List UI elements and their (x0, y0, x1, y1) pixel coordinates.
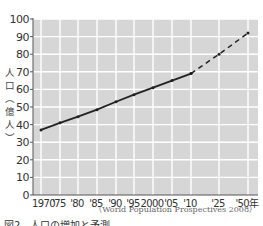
y-tick-label: 30 (16, 136, 29, 149)
y-tick-label: 100 (10, 13, 30, 26)
y-tick-label: 10 (16, 171, 29, 184)
data-point (171, 79, 174, 82)
data-point (77, 115, 80, 118)
data-point (247, 32, 250, 35)
y-axis-label-char: 人 (4, 118, 16, 131)
data-point (96, 108, 99, 111)
data-point (190, 72, 193, 75)
population-line-chart: 01020304050607080901001970'75'80'85'90'9… (0, 0, 263, 226)
y-tick-label: 50 (16, 101, 29, 114)
data-point (152, 86, 155, 89)
figure-caption: 図2 人口の増加と予測 (4, 217, 110, 226)
y-axis-label-char: ︶ (4, 131, 16, 144)
y-tick-label: 90 (16, 31, 29, 44)
y-tick-label: 40 (16, 119, 29, 132)
data-point (133, 93, 136, 96)
data-point (40, 128, 43, 131)
data-point (59, 121, 62, 124)
y-tick-label: 70 (16, 66, 29, 79)
y-tick-label: 80 (16, 48, 29, 61)
data-source-note: （World Population Prospectives 2008） (94, 203, 257, 214)
data-point (218, 53, 221, 56)
y-tick-label: 20 (16, 154, 29, 167)
y-axis-label-char: 口 (4, 79, 16, 92)
data-point (115, 100, 118, 103)
y-tick-label: 60 (16, 83, 29, 96)
y-axis-label-char: 人 (4, 66, 16, 79)
y-tick-label: 0 (23, 189, 30, 202)
x-tick-label: '75 (52, 198, 66, 209)
y-axis-label: 人 口 ︵ 億 人 ︶ (4, 66, 16, 144)
x-tick-label: '80 (70, 198, 84, 209)
chart-plot: 01020304050607080901001970'75'80'85'90'9… (0, 0, 263, 226)
y-axis-label-char: ︵ (4, 92, 16, 105)
y-axis-label-char: 億 (4, 105, 16, 118)
